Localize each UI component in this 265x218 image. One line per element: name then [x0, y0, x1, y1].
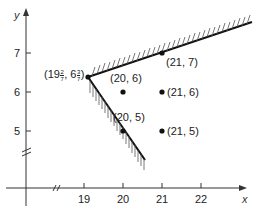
diagram-stage: y x 7 6 5 19 20 21 22 (1927, 637) (20, 6… — [0, 0, 265, 218]
x-axis-label: x — [242, 194, 248, 205]
y-tick-label: 7 — [14, 48, 20, 59]
y-tick-label: 5 — [14, 126, 20, 137]
point-label-21-5: (21, 5) — [167, 126, 199, 137]
point-label-21-7: (21, 7) — [166, 57, 198, 68]
x-tick-label: 20 — [117, 194, 129, 205]
fraction-denominator: 7 — [77, 76, 80, 82]
x-axis-arrow-icon — [239, 185, 247, 191]
point-label-21-6: (21, 6) — [167, 87, 199, 98]
fraction-numerator: 3 — [77, 69, 80, 76]
vertex-point — [85, 74, 90, 79]
y-axis-arrow-icon — [23, 8, 29, 16]
y-axis — [22, 8, 31, 206]
y-axis-label: y — [14, 10, 20, 21]
vertex-y-fraction: 37 — [77, 69, 80, 82]
vertex-label: (1927, 637) — [44, 69, 85, 82]
diagram-canvas — [0, 0, 265, 218]
y-tick-label: 6 — [14, 87, 20, 98]
x-tick-label: 22 — [195, 194, 207, 205]
x-tick-label: 19 — [78, 194, 90, 205]
vertex-label-mid: , 6 — [64, 68, 76, 80]
lower-boundary-line — [88, 77, 145, 170]
point-label-20-6: (20, 6) — [110, 73, 142, 84]
x-tick-label: 21 — [156, 194, 168, 205]
vertex-label-suffix: ) — [81, 68, 85, 80]
point-21-5 — [159, 128, 164, 133]
point-20-5 — [120, 128, 125, 133]
vertex-label-prefix: (19 — [44, 68, 60, 80]
point-label-20-5: (20, 5) — [113, 112, 145, 123]
point-21-7 — [159, 50, 164, 55]
x-axis — [6, 183, 247, 191]
point-21-6 — [159, 89, 164, 94]
point-20-6 — [120, 89, 125, 94]
